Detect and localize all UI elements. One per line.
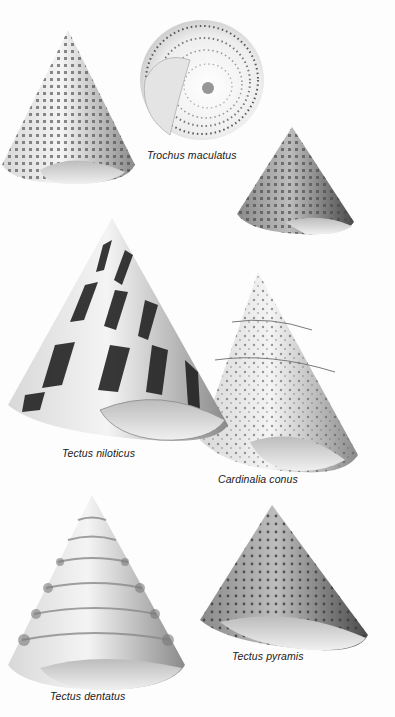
label-tectus-dentatus: Tectus dentatus — [50, 690, 125, 702]
shell-trochus-small — [237, 127, 354, 234]
shell-plate: Trochus maculatus Tectus niloticus Cardi… — [0, 0, 395, 717]
shell-tectus-pyramis — [200, 505, 368, 650]
label-trochus-maculatus: Trochus maculatus — [147, 149, 237, 161]
shell-tectus-niloticus — [8, 218, 228, 441]
shell-illustrations — [0, 0, 395, 717]
shell-trochus-side — [2, 30, 135, 184]
label-tectus-niloticus: Tectus niloticus — [62, 447, 135, 459]
shell-tectus-dentatus — [8, 495, 185, 690]
label-tectus-pyramis: Tectus pyramis — [232, 650, 304, 662]
label-cardinalia-conus: Cardinalia conus — [218, 473, 298, 485]
shell-cardinalia-conus — [200, 272, 358, 472]
shell-trochus-base — [140, 20, 264, 140]
